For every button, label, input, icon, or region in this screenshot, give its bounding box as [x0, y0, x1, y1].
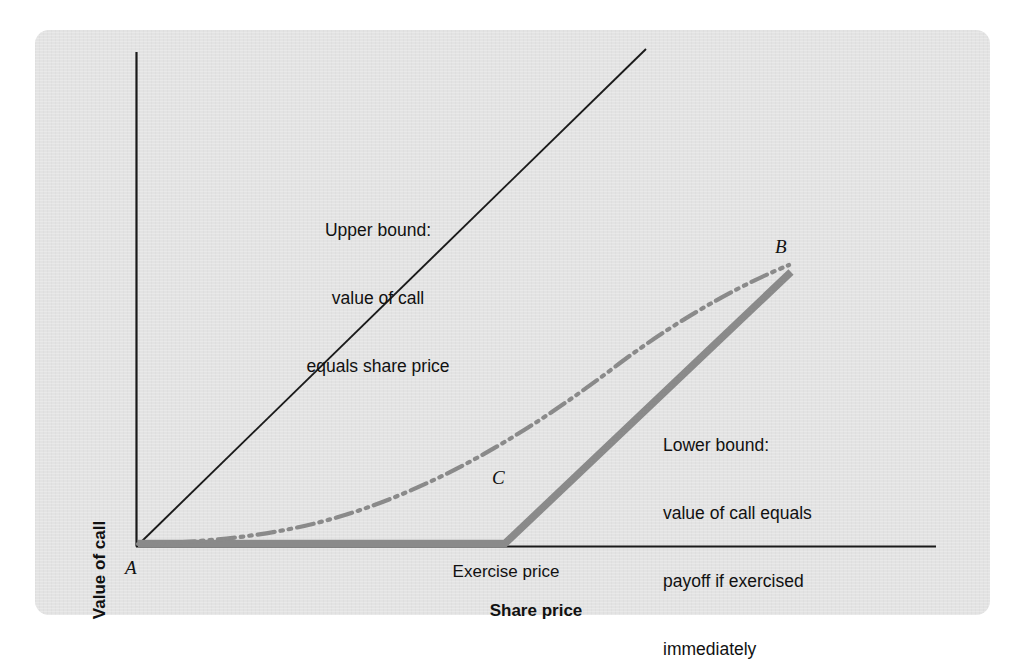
lower-bound-line-1: Lower bound:	[663, 434, 812, 457]
lower-bound-line-2: value of call equals	[663, 502, 812, 525]
y-axis-title: Value of call	[90, 521, 110, 619]
exercise-price-label: Exercise price	[453, 561, 560, 583]
upper-bound-line-1: Upper bound:	[307, 219, 450, 242]
upper-bound-line-2: value of call	[307, 287, 450, 310]
x-axis-title: Share price	[490, 600, 583, 622]
point-label-a: A	[125, 556, 137, 581]
point-label-c: C	[492, 466, 505, 491]
upper-bound-annotation: Upper bound: value of call equals share …	[307, 173, 450, 423]
lower-bound-line-4: immediately	[663, 638, 812, 661]
y-axis-title-wrap: Value of call	[55, 260, 185, 290]
upper-bound-line-3: equals share price	[307, 355, 450, 378]
lower-bound-line-3: payoff if exercised	[663, 570, 812, 593]
point-label-b: B	[775, 235, 787, 260]
lower-bound-annotation: Lower bound: value of call equals payoff…	[663, 388, 812, 663]
